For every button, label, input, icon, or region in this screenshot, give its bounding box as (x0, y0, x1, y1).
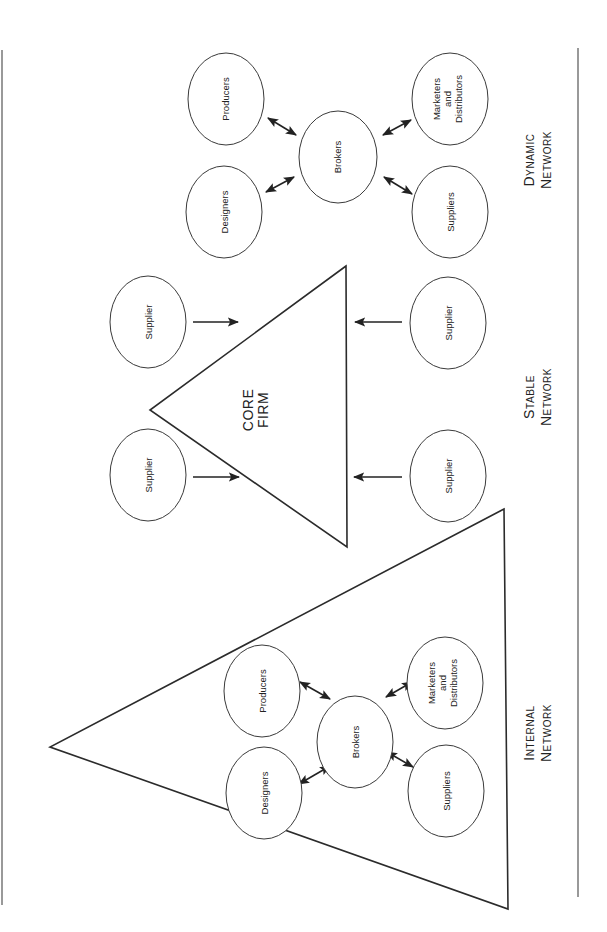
stable-supplier-label-4: Supplier (443, 459, 454, 494)
arrow-brokers-producers (268, 118, 296, 135)
stable-network: CORE FIRM Supplier Supplier Supplier Sup… (110, 266, 554, 547)
stable-supplier-label-1: Supplier (143, 305, 154, 340)
dynamic-network: Producers Designers Brokers Marketers an… (186, 53, 554, 258)
core-firm-label-2: FIRM (255, 392, 271, 428)
int-producers-label: Producers (257, 669, 268, 713)
dyn-marketers-label-2: and (442, 91, 453, 107)
dyn-suppliers-label: Suppliers (445, 192, 456, 232)
int-marketers-label-2: and (437, 675, 448, 691)
arrow-brokers-suppliers (384, 177, 412, 194)
dyn-designers-label: Designers (219, 190, 230, 233)
int-marketers-label-3: Distributors (448, 659, 459, 707)
int-brokers-label: Brokers (350, 725, 361, 758)
network-types-diagram: Producers Designers Brokers Marketers an… (0, 0, 607, 932)
int-arrow-brokers-producers (300, 682, 330, 699)
stable-network-caption-1: Stable (521, 375, 537, 419)
dyn-producers-label: Producers (220, 77, 231, 121)
int-suppliers-label: Suppliers (441, 771, 452, 811)
internal-network-caption-2: Network (538, 704, 554, 762)
internal-network-caption-1: Internal (521, 705, 537, 760)
dynamic-network-caption-1: Dynamic (521, 133, 537, 186)
arrow-brokers-designers (266, 177, 294, 192)
dyn-marketers-label-1: Marketers (431, 78, 442, 120)
stable-supplier-label-3: Supplier (443, 306, 454, 341)
dyn-brokers-label: Brokers (332, 140, 343, 173)
stable-supplier-label-2: Supplier (143, 458, 154, 493)
internal-network: Producers Designers Brokers Marketers an… (50, 509, 554, 909)
arrow-brokers-marketers (383, 120, 411, 135)
dynamic-network-caption-2: Network (538, 131, 554, 189)
core-firm-label-1: CORE (240, 389, 256, 431)
dyn-marketers-label-3: Distributors (453, 75, 464, 123)
stable-network-caption-2: Network (538, 368, 554, 426)
int-marketers-label-1: Marketers (426, 662, 437, 704)
int-designers-label: Designers (259, 771, 270, 814)
